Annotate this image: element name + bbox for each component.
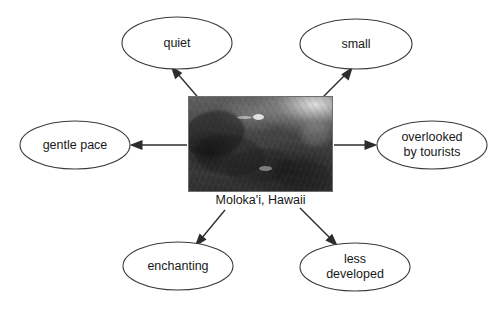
node-small-label: small: [341, 37, 370, 51]
node-less-developed-label-line2: developed: [326, 267, 384, 281]
node-overlooked-by-tourists-label-line2: by tourists: [404, 145, 461, 159]
center-photo-caption: Moloka'i, Hawaii: [188, 193, 333, 207]
node-overlooked-by-tourists-label-line1: overlooked: [401, 130, 462, 144]
photo-highlight-streak: [237, 116, 252, 119]
photo-highlight-spot: [253, 114, 264, 120]
node-quiet-label: quiet: [163, 36, 191, 50]
arrow-to-enchanting: [195, 210, 226, 247]
node-small[interactable]: small: [300, 19, 412, 69]
center-photo: [188, 96, 333, 192]
node-enchanting[interactable]: enchanting: [123, 242, 233, 290]
node-less-developed-label-line1: less: [344, 252, 366, 266]
node-gentle-pace[interactable]: gentle pace: [20, 121, 130, 169]
arrow-to-less-developed: [300, 208, 338, 247]
node-overlooked-by-tourists[interactable]: overlooked by tourists: [377, 121, 487, 169]
node-quiet[interactable]: quiet: [122, 17, 232, 69]
node-less-developed[interactable]: less developed: [300, 243, 410, 291]
arrow-to-gentle-pace: [130, 140, 188, 150]
photo-highlight-shore: [259, 166, 272, 171]
node-gentle-pace-label: gentle pace: [43, 138, 108, 152]
photo-glow-cloud: [301, 123, 331, 145]
arrow-to-overlooked-by-tourists: [334, 140, 378, 150]
concept-web-diagram: quiet small gentle pace overlooked by to…: [0, 0, 504, 311]
node-enchanting-label: enchanting: [147, 259, 208, 273]
